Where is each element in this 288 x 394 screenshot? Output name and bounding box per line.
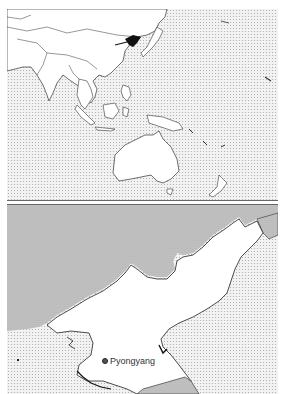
detail-map-panel: Pyongyang (7, 205, 278, 394)
overview-map-panel (7, 9, 278, 200)
capital-marker-icon (102, 358, 108, 364)
overview-map (7, 9, 278, 200)
island (17, 359, 19, 361)
city-label-pyongyang: Pyongyang (110, 356, 155, 366)
